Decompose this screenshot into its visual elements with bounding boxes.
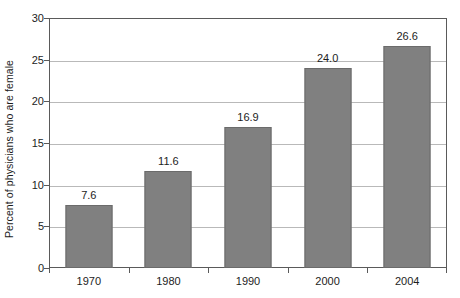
bar-value-label: 26.6 bbox=[396, 30, 417, 42]
x-axis-tick-mark bbox=[49, 268, 50, 273]
x-axis-tick-mark bbox=[208, 268, 209, 273]
bar[interactable] bbox=[224, 127, 271, 268]
bar-group[interactable]: 7.6 bbox=[49, 18, 129, 268]
x-axis-tick-labels: 19701980199020002004 bbox=[49, 275, 447, 293]
y-axis-tick-marks bbox=[0, 18, 49, 268]
x-axis-tick-mark bbox=[288, 268, 289, 273]
x-axis-tick-mark bbox=[367, 268, 368, 273]
x-axis-tick-mark bbox=[446, 268, 447, 273]
x-axis-tick-label: 1970 bbox=[77, 275, 101, 287]
bar[interactable] bbox=[65, 205, 112, 268]
bar-value-label: 24.0 bbox=[317, 52, 338, 64]
bar-group[interactable]: 11.6 bbox=[129, 18, 209, 268]
bars-layer: 7.611.616.924.026.6 bbox=[49, 18, 447, 268]
bar-value-label: 16.9 bbox=[237, 111, 258, 123]
x-axis-tick-mark bbox=[129, 268, 130, 273]
bar-value-label: 11.6 bbox=[158, 155, 179, 167]
x-axis-tick-marks bbox=[49, 268, 447, 274]
bar[interactable] bbox=[145, 171, 192, 268]
x-axis-tick-label: 1980 bbox=[156, 275, 180, 287]
bar-group[interactable]: 16.9 bbox=[208, 18, 288, 268]
bar-group[interactable]: 24.0 bbox=[288, 18, 368, 268]
bar-chart-figure: Percent of physicians who are female 051… bbox=[0, 0, 460, 298]
bar-value-label: 7.6 bbox=[81, 189, 96, 201]
x-axis-tick-label: 2004 bbox=[395, 275, 419, 287]
bar-group[interactable]: 26.6 bbox=[367, 18, 447, 268]
bar[interactable] bbox=[304, 68, 351, 268]
x-axis-tick-label: 1990 bbox=[236, 275, 260, 287]
x-axis-tick-label: 2000 bbox=[315, 275, 339, 287]
bar[interactable] bbox=[384, 46, 431, 268]
